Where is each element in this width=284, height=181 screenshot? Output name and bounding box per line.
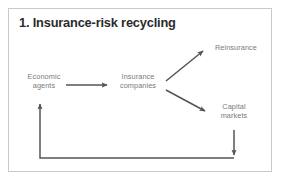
- node-reinsurance-line1: Reinsurance: [206, 44, 266, 53]
- node-economic-agents: Economic agents: [20, 73, 68, 90]
- arrow-insurance-to-reinsurance: [166, 51, 203, 81]
- node-insurance-companies: Insurance companies: [110, 73, 166, 90]
- node-insurance-companies-line2: companies: [110, 82, 166, 91]
- arrow-insurance-to-capital: [166, 90, 205, 111]
- diagram-arrows: [0, 0, 284, 181]
- figure-panel: 1. Insurance-risk recycling Economic age…: [0, 0, 284, 181]
- node-capital-markets-line2: markets: [210, 112, 258, 121]
- arrow-feedback-loop: [40, 104, 234, 158]
- node-reinsurance: Reinsurance: [206, 44, 266, 53]
- node-capital-markets: Capital markets: [210, 103, 258, 120]
- node-economic-agents-line2: agents: [20, 82, 68, 91]
